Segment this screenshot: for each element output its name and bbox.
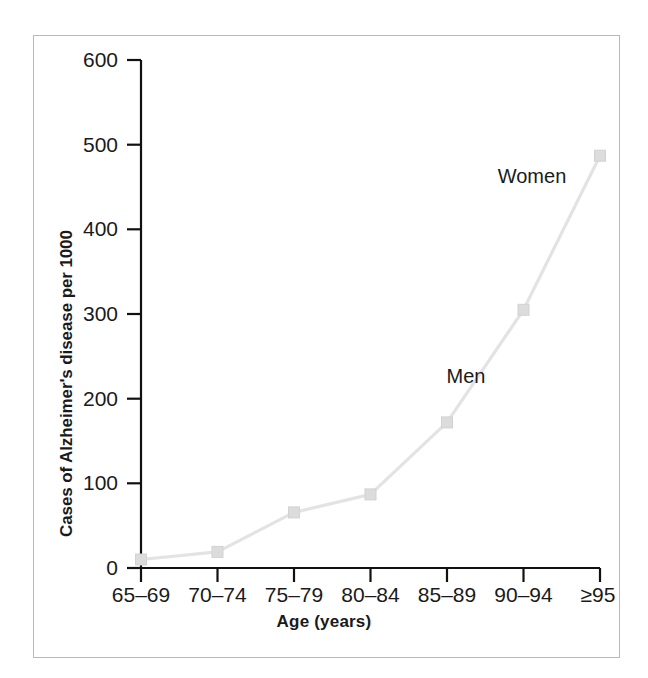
- y-axis-ticks: [127, 60, 141, 568]
- x-tick-label: 65–69: [112, 583, 170, 607]
- data-point: [595, 150, 606, 161]
- data-point: [365, 489, 376, 500]
- annotation-women: Women: [498, 165, 567, 188]
- x-tick-label: 90–94: [494, 583, 552, 607]
- x-tick-label: ≥95: [581, 583, 616, 607]
- data-point: [442, 417, 453, 428]
- y-tick-label: 600: [60, 48, 118, 72]
- x-tick-label: 80–84: [341, 583, 399, 607]
- x-axis-title: Age (years): [0, 612, 648, 632]
- data-point: [518, 304, 529, 315]
- x-tick-label: 85–89: [418, 583, 476, 607]
- data-point: [289, 507, 300, 518]
- annotation-men: Men: [447, 365, 486, 388]
- y-axis-title: Cases of Alzheimer's disease per 1000: [57, 230, 77, 537]
- figure-container: 600 500 400 300 200 100 0 65–69 70–74 75…: [0, 0, 648, 678]
- series-markers-women: [136, 150, 606, 565]
- x-tick-label: 70–74: [188, 583, 246, 607]
- data-point: [136, 554, 147, 565]
- y-tick-label: 0: [60, 556, 118, 580]
- x-tick-label: 75–79: [265, 583, 323, 607]
- data-point: [212, 546, 223, 557]
- y-tick-label: 500: [60, 133, 118, 157]
- x-axis-ticks: [141, 568, 600, 582]
